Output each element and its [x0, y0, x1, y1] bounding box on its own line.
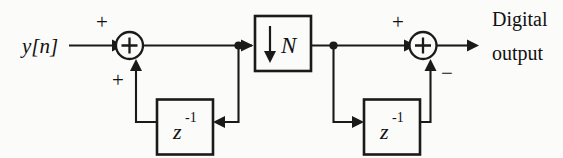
right-delay-input-arrowhead: [352, 116, 364, 128]
left-feedback-wire-out: [136, 71, 157, 122]
left-delay-input-arrowhead: [213, 116, 225, 128]
output-label-line1: Digital: [492, 8, 548, 31]
output-label-line2: output: [492, 42, 544, 65]
delay-block-right-exponent: -1: [392, 110, 404, 125]
right-delay-feed-wire: [334, 46, 353, 123]
input-label: y[n]: [20, 34, 58, 58]
accumulator-adder: [116, 32, 143, 59]
delay-block-left: z -1: [157, 100, 213, 155]
delay-block-left-box: [157, 100, 213, 155]
block-diagram: z -1 N: [0, 0, 563, 158]
accumulator-plus-bottom-sign: +: [112, 68, 124, 92]
figure-canvas: z -1 N: [0, 0, 563, 158]
delay-block-left-base: z: [172, 119, 182, 144]
right-delay-return-path: [420, 59, 437, 122]
left-feedback-wire-in: [225, 46, 239, 123]
accumulator-plus-left-sign: +: [96, 10, 108, 34]
difference-minus-bottom-sign: −: [441, 61, 453, 85]
output-arrowhead: [467, 40, 479, 52]
accumulator-bottom-arrowhead: [130, 59, 142, 71]
downsampler-input-arrowhead: [241, 40, 254, 52]
left-feedback-return-path: [130, 59, 157, 122]
right-delay-return-wire: [420, 71, 431, 122]
difference-plus-left-sign: +: [392, 10, 404, 34]
left-feedback-path: [213, 46, 239, 129]
delay-block-right-box: [364, 100, 420, 155]
downsample-factor-label: N: [280, 33, 298, 58]
difference-adder: [410, 32, 437, 59]
delay-block-right: z -1: [364, 100, 420, 155]
difference-adder-bottom-arrowhead: [425, 59, 437, 71]
downsample-block: N: [255, 16, 311, 71]
output-wire-group: [437, 40, 480, 52]
delay-block-left-exponent: -1: [185, 110, 197, 125]
accumulator-output-wire-group: [143, 40, 254, 52]
right-delay-feed-path: [334, 46, 365, 129]
downsampler-output-wire-group: [311, 40, 417, 52]
delay-block-right-base: z: [379, 119, 389, 144]
